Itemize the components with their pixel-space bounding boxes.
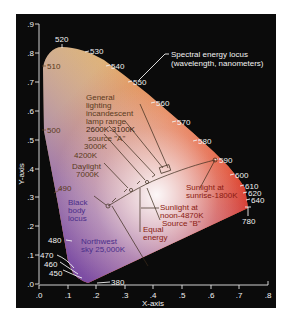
- y-tick: .0: [27, 280, 34, 289]
- svg-text:sky 25,000K: sky 25,000K: [81, 245, 126, 254]
- x-tick: .8: [265, 291, 272, 300]
- wavelength-label: 530: [90, 47, 104, 56]
- wavelength-label: 520: [55, 35, 69, 44]
- y-tick: .6: [27, 107, 34, 116]
- x-tick: .7: [236, 291, 243, 300]
- locus-subtitle: (wavelength, nanometers): [171, 59, 264, 68]
- y-tick: .2: [27, 222, 34, 231]
- y-axis: [35, 24, 39, 284]
- x-tick: .5: [179, 291, 186, 300]
- y-tick: .8: [27, 49, 34, 58]
- wavelength-label: 540: [111, 62, 125, 71]
- wavelength-label: 510: [47, 62, 61, 71]
- x-tick: .6: [208, 291, 215, 300]
- x-axis: [39, 281, 268, 289]
- daylight-annotation: Daylight 7000K: [72, 162, 102, 179]
- y-tick: .3: [27, 193, 34, 202]
- x-tick: .1: [65, 291, 72, 300]
- wavelength-label: 570: [177, 118, 191, 127]
- svg-text:7000K: 7000K: [76, 170, 100, 179]
- chromaticity-chart: .9 .8 .7 .6 .5 .4 .3 .2 .1 .0 Y-axis .0 …: [0, 0, 290, 323]
- y-tick-labels: .9 .8 .7 .6 .5 .4 .3 .2 .1 .0: [27, 20, 34, 289]
- wavelength-label: 450: [49, 269, 63, 278]
- wavelength-label: 580: [198, 137, 212, 146]
- svg-text:energy: energy: [143, 233, 167, 242]
- y-tick: .4: [27, 165, 34, 174]
- spectral-locus-callout: Spectral energy locus (wavelength, nanom…: [171, 50, 264, 68]
- y-tick: .1: [27, 251, 34, 260]
- wavelength-label: 460: [44, 260, 58, 269]
- wavelength-label: 380: [111, 278, 125, 287]
- x-axis-label: X-axis: [142, 299, 164, 308]
- wavelength-label: 550: [133, 78, 147, 87]
- svg-text:2600K-3100K: 2600K-3100K: [86, 125, 136, 134]
- wavelength-label: 560: [156, 99, 170, 108]
- x-tick: .0: [36, 291, 43, 300]
- svg-text:locus: locus: [68, 214, 87, 223]
- x-tick: .3: [122, 291, 129, 300]
- wavelength-label: 640: [251, 196, 265, 205]
- wavelength-label: 780: [242, 217, 256, 226]
- wavelength-label: 500: [47, 126, 61, 135]
- wavelength-label: 480: [48, 236, 62, 245]
- y-tick: .5: [27, 136, 34, 145]
- sunlight-noon-annotation: Sunlight at noon-4870K Source "B": [160, 203, 204, 228]
- y-tick: .7: [27, 78, 34, 87]
- wavelength-label: 600: [235, 171, 249, 180]
- wavelength-label: 470: [40, 251, 54, 260]
- source-b-label: Source "B": [162, 219, 201, 228]
- x-tick: .2: [93, 291, 100, 300]
- wavelength-label: 490: [58, 184, 72, 193]
- y-axis-label: Y-axis: [17, 163, 26, 185]
- 3000k-label: 3000K: [84, 142, 108, 151]
- y-tick: .9: [27, 20, 34, 29]
- 4200k-label: 4200K: [74, 151, 98, 160]
- wavelength-label: 590: [219, 156, 233, 165]
- svg-text:sunrise-1800K: sunrise-1800K: [186, 191, 238, 200]
- locus-title: Spectral energy locus: [171, 50, 248, 59]
